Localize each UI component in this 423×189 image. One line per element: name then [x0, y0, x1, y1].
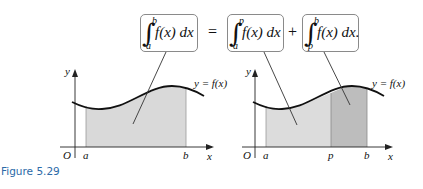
- right-tick-b: b: [364, 150, 370, 161]
- left-tick-a: a: [83, 150, 89, 161]
- integral-box-lhs: ∫ b a f(x) dx: [140, 14, 198, 52]
- integral-box-term1: ∫ p a f(x) dx: [227, 14, 284, 52]
- right-tick-p: p: [328, 150, 334, 161]
- left-x-axis-label: x: [207, 151, 212, 162]
- plus-sign: +: [288, 24, 297, 40]
- integrand: f(x) dx.: [317, 25, 359, 40]
- integral-box-term2: ∫ b p f(x) dx.: [302, 14, 359, 52]
- equals-sign: =: [208, 24, 217, 40]
- right-tick-a: a: [263, 150, 269, 161]
- right-x-axis-label: x: [388, 151, 393, 162]
- left-y-axis-label: y: [65, 66, 70, 77]
- lower-limit: a: [233, 41, 238, 51]
- left-curve-label: y = f(x): [194, 78, 227, 89]
- lower-limit: a: [146, 41, 151, 51]
- left-origin-label: O: [63, 150, 71, 161]
- right-shaded-area-a-p: [266, 93, 331, 147]
- integrand: f(x) dx: [242, 25, 281, 40]
- right-origin-label: O: [243, 150, 251, 161]
- right-shaded-area-p-b: [331, 86, 367, 147]
- right-curve-label: y = f(x): [372, 78, 405, 89]
- left-tick-b: b: [183, 150, 189, 161]
- figure-caption: Figure 5.29: [1, 165, 60, 177]
- right-y-axis-label: y: [246, 66, 251, 77]
- integrand: f(x) dx: [155, 25, 194, 40]
- lower-limit: p: [308, 41, 313, 51]
